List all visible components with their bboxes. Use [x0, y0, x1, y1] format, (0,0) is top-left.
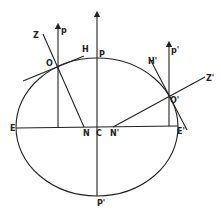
label-c: C	[96, 129, 102, 138]
label-h-prime: H'	[148, 57, 157, 66]
normal-z-prime-line	[113, 77, 205, 127]
tangent-at-o	[23, 56, 84, 81]
label-e-prime: E'	[177, 127, 185, 136]
label-p-prime: p'	[171, 46, 179, 55]
label-z-prime: Z'	[206, 74, 214, 83]
label-pole-p-prime: P'	[97, 199, 105, 208]
label-o-prime: O'	[170, 96, 179, 105]
label-p: p	[61, 26, 67, 35]
label-e: E	[10, 124, 15, 133]
ellipse-diagram: Z p O H P H' p' Z' O' E N C N' E' P'	[0, 0, 221, 210]
normal-zn-line	[43, 34, 84, 127]
label-n-prime: N'	[110, 129, 119, 138]
label-h: H	[82, 45, 89, 54]
label-z: Z	[33, 31, 39, 40]
label-n: N	[83, 129, 90, 138]
label-o: O	[46, 59, 53, 68]
tangent-at-o-prime	[149, 57, 187, 130]
label-pole-p: P	[99, 50, 105, 59]
